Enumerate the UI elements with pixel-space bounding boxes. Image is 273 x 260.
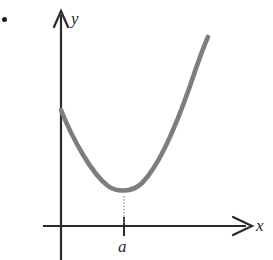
x-axis-label: x bbox=[256, 217, 264, 234]
figure-canvas bbox=[0, 0, 273, 260]
y-axis-label: y bbox=[71, 10, 79, 27]
parabola-figure: y x a bbox=[0, 0, 273, 260]
parabola-curve bbox=[61, 37, 208, 191]
vertex-tick-label-a: a bbox=[118, 238, 127, 255]
